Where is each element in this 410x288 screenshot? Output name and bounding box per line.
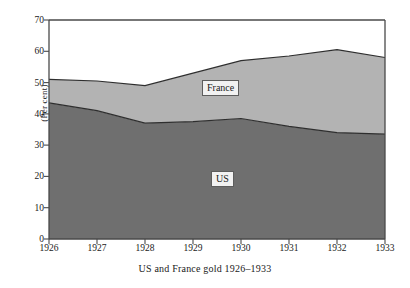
x-tick-label: 1930 — [218, 243, 264, 254]
x-tick-label: 1929 — [170, 243, 216, 254]
x-tick-label: 1932 — [314, 243, 360, 254]
x-tick-label: 1931 — [266, 243, 312, 254]
x-tick-label: 1927 — [74, 243, 120, 254]
x-tick-label: 1928 — [122, 243, 168, 254]
chart-container: (Per cent) 70 60 50 40 30 20 10 0 1926 1… — [0, 0, 410, 288]
series-label-us: US — [211, 171, 234, 187]
x-tick-label: 1933 — [362, 243, 408, 254]
x-tick-label: 1926 — [26, 243, 72, 254]
chart-caption: US and France gold 1926–1933 — [0, 263, 410, 274]
series-label-france: France — [202, 80, 239, 96]
x-axis-tick-labels: 1926 1927 1928 1929 1930 1931 1932 1933 — [0, 0, 410, 288]
